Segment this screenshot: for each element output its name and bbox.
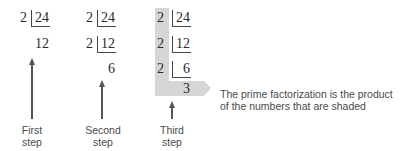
division-bracket-vertical (172, 36, 173, 52)
division-bracket-vertical (172, 10, 173, 26)
division-bracket-horizontal (172, 52, 191, 53)
divisor: 2 (157, 11, 164, 25)
division-bracket-horizontal (172, 26, 191, 27)
division-bracket-vertical (172, 61, 173, 77)
step-label: Third step (153, 124, 191, 148)
dividend: 12 (176, 37, 190, 51)
shaded-region (0, 0, 419, 151)
divisor: 2 (157, 62, 164, 76)
arrow-shaft (171, 106, 173, 119)
division-bracket-horizontal (172, 77, 191, 78)
explanation-note: The prime factorization is the product o… (220, 88, 419, 112)
divisor: 2 (157, 37, 164, 51)
dividend: 6 (183, 62, 190, 76)
final-quotient: 3 (183, 82, 190, 96)
dividend: 24 (176, 11, 190, 25)
